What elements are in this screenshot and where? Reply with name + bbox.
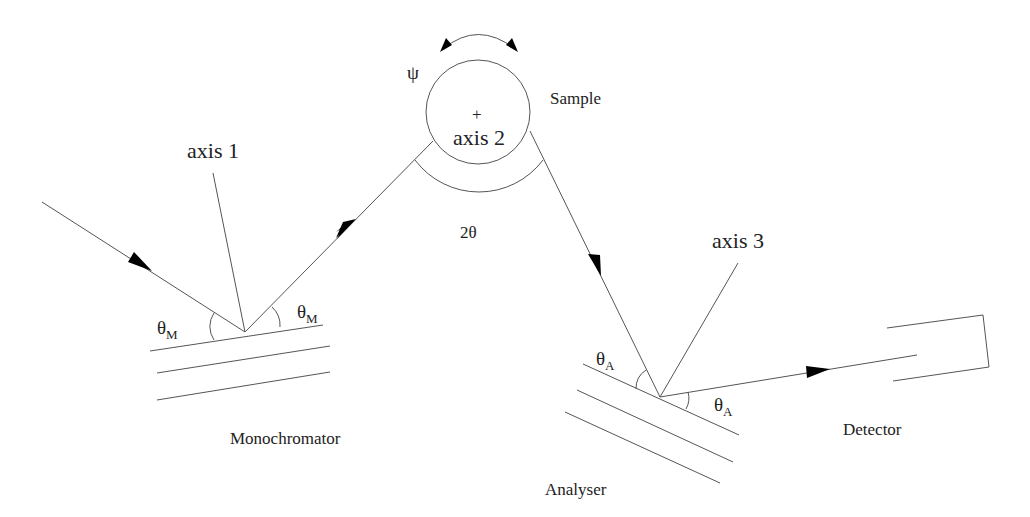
theta-m-label-right: θM	[297, 301, 318, 326]
analyser-plane	[577, 390, 733, 462]
theta-a-arc-right	[686, 392, 689, 409]
two-theta-label: 2θ	[460, 223, 477, 242]
theta-m-arc-left	[210, 313, 214, 340]
analyser-plane	[565, 412, 720, 483]
theta-a-label-right: θA	[714, 394, 733, 419]
analyser-label: Analyser	[545, 480, 607, 499]
axis-3-label: axis 3	[712, 228, 764, 253]
sample-center-mark: +	[472, 105, 482, 124]
theta-m-arc-right	[272, 307, 280, 327]
psi-rotation-arc	[443, 35, 515, 50]
monochromator-plane	[157, 346, 330, 373]
sample-label: Sample	[550, 89, 601, 108]
psi-arrow-right	[506, 38, 518, 52]
detector-label: Detector	[843, 420, 902, 439]
analyser-to-detector-beam	[660, 355, 917, 397]
monochromator-label: Monochromator	[230, 429, 341, 448]
analyser-crystal	[565, 364, 739, 483]
theta-a-label-left: θA	[596, 348, 615, 373]
axis-1-label: axis 1	[187, 138, 239, 163]
analyser-to-detector-arrow	[806, 366, 830, 378]
incoming-beam-arrow	[128, 252, 152, 271]
psi-label: ψ	[407, 62, 419, 83]
psi-arrow-left	[440, 38, 452, 52]
axis-3-line	[660, 263, 738, 397]
two-theta-arc	[415, 160, 543, 192]
monochromator-plane	[157, 372, 330, 400]
detector-housing	[887, 315, 989, 381]
theta-a-arc-left	[636, 370, 646, 389]
axis-2-label: axis 2	[453, 125, 505, 150]
theta-m-label-left: θM	[157, 317, 178, 342]
spectrometer-diagram: axis 1 θM θM Monochromator + axis 2 Samp…	[0, 0, 1030, 517]
axis-1-line	[213, 173, 245, 332]
